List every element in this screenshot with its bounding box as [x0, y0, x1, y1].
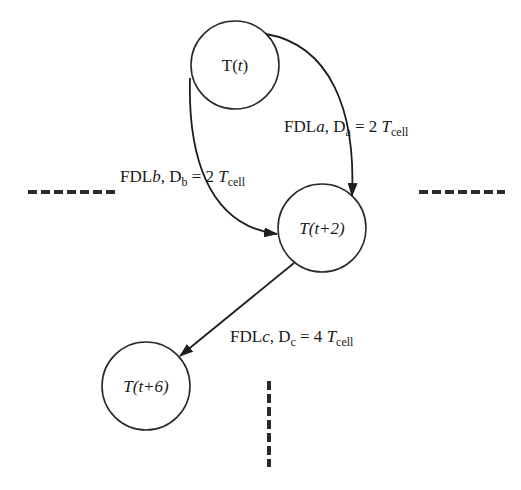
node-t-plus-6-label: T(t+6)	[123, 377, 169, 396]
node-t-label: T(t)	[222, 56, 248, 75]
node-t-plus-6: T(t+6)	[102, 342, 190, 430]
edge-fdl-b	[190, 78, 277, 234]
node-t-plus-2-label: T(t+2)	[299, 219, 345, 238]
node-t: T(t)	[191, 21, 279, 109]
edge-c-label: FDLc, Dc = 4 Tcell	[230, 327, 354, 349]
edge-b-label: FDLb, Db = 2 Tcell	[120, 167, 246, 189]
node-t-plus-2: T(t+2)	[278, 184, 366, 272]
diagram-canvas: T(t) T(t+2) T(t+6) FDLa, Da = 2 Tcell FD…	[0, 0, 521, 490]
